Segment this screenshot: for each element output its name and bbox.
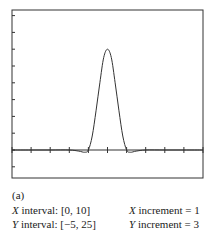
series-line-curve <box>12 49 203 152</box>
x-increment-name: X <box>129 204 136 216</box>
y-interval: Y interval: [−5, 25] <box>12 218 96 231</box>
x-interval-name: X <box>12 204 19 216</box>
chart-plot <box>0 0 210 182</box>
y-increment: Y increment = 3 <box>129 218 199 231</box>
figure-label: (a) <box>12 189 24 202</box>
x-interval-text: interval: [0, 10] <box>19 204 90 216</box>
y-interval-text: interval: [−5, 25] <box>18 218 96 230</box>
x-increment-text: increment = 1 <box>136 204 200 216</box>
x-increment: X increment = 1 <box>129 204 200 217</box>
x-interval: X interval: [0, 10] <box>12 204 90 217</box>
y-increment-text: increment = 3 <box>135 218 199 230</box>
